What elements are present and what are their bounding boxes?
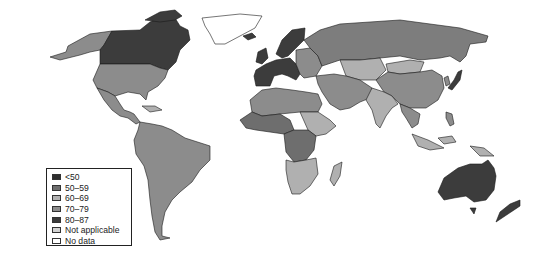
region-korea: [444, 76, 450, 86]
legend-swatch: [52, 227, 61, 233]
region-australia: [438, 160, 496, 202]
region-russia: [304, 20, 488, 66]
legend-label: 70–79: [65, 204, 89, 214]
region-new-zealand: [496, 200, 520, 222]
region-iceland: [243, 33, 256, 40]
legend-swatch: [52, 206, 61, 212]
region-west-africa: [240, 112, 294, 134]
region-central-africa: [284, 130, 316, 162]
region-indonesia: [412, 134, 494, 156]
region-madagascar: [330, 162, 342, 186]
legend-swatch: [52, 185, 61, 191]
legend-label: No data: [65, 236, 95, 246]
legend-label: 80–87: [65, 215, 89, 225]
legend-swatch: [52, 174, 61, 180]
legend-item-70-79: 70–79: [52, 204, 127, 215]
region-philippines: [446, 112, 454, 126]
region-japan: [448, 70, 462, 90]
region-south-america: [134, 122, 210, 240]
legend-item-no-data: No data: [52, 236, 127, 247]
legend-label: Not applicable: [65, 225, 119, 235]
legend-label: <50: [65, 172, 80, 182]
region-canada: [100, 18, 190, 70]
legend-swatch: [52, 195, 61, 201]
legend-label: 50–59: [65, 183, 89, 193]
region-caribbean: [142, 106, 162, 112]
map-legend: <50 50–59 60–69 70–79 80–87 Not applicab…: [46, 168, 132, 246]
legend-item-50-59: 50–59: [52, 183, 127, 194]
region-uk: [256, 48, 268, 64]
legend-swatch: [52, 217, 61, 223]
legend-item-80-87: 80–87: [52, 214, 127, 225]
legend-item-60-69: 60–69: [52, 193, 127, 204]
region-southern-africa: [286, 158, 318, 194]
region-greenland: [202, 14, 262, 44]
legend-label: 60–69: [65, 193, 89, 203]
legend-swatch: [52, 238, 61, 244]
region-tasmania: [470, 208, 476, 214]
legend-item-not-applicable: Not applicable: [52, 225, 127, 236]
legend-item-lt50: <50: [52, 172, 127, 183]
